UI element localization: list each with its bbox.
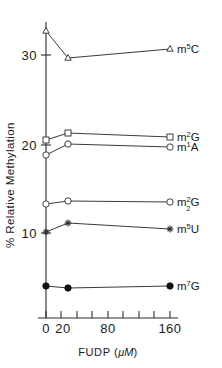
x-tick-label-20: 20 [55, 321, 70, 336]
series-label-m7G-base: m [177, 280, 187, 292]
series-m5C-line [46, 31, 170, 58]
series-m5C-marker-2 [167, 46, 173, 52]
series-m7G-marker-0 [43, 283, 49, 289]
series-m1A-marker-0 [43, 152, 49, 158]
series-m1A: m1A [43, 140, 199, 158]
series-m2G-marker-0 [43, 137, 49, 143]
series-label-m1A-rest: A [191, 141, 199, 153]
axis-group [38, 22, 178, 318]
x-tick-label-0: 0 [42, 321, 50, 336]
x-tick-labels: 0 20 80 160 [42, 321, 181, 336]
series-label-m5U-base: m [177, 223, 187, 235]
series-m2G-marker-1 [65, 130, 71, 136]
methylation-line-chart: 30 20 10 0 20 80 160 FUDP (μM) [0, 0, 222, 368]
series-m5U-line [46, 223, 170, 232]
y-tick-label-20: 20 [22, 138, 37, 153]
series-label-m22G: m22G [177, 195, 199, 213]
series-label-m5U: m5U [177, 222, 199, 235]
series-m5U: m5U [43, 220, 199, 236]
x-axis-title-text: FUDP (μM) [78, 346, 138, 358]
series-m5U-marker-1 [65, 220, 72, 227]
series-m1A-marker-1 [65, 141, 71, 147]
series-m7G-marker-2 [167, 283, 173, 289]
series-m1A-line [46, 144, 170, 155]
series-m7G-marker-1 [65, 285, 71, 291]
series-label-m7G: m7G [177, 279, 200, 292]
series-m5C-marker-0 [43, 28, 49, 34]
series-label-m5C-rest: C [191, 43, 199, 55]
series-m1A-marker-2 [167, 144, 173, 150]
y-tick-labels: 30 20 10 [22, 48, 37, 241]
figure-container: 30 20 10 0 20 80 160 FUDP (μM) [0, 0, 222, 368]
x-axis-title-close: ) [134, 346, 138, 358]
series-m5U-marker-2 [167, 226, 174, 233]
y-tick-label-10: 10 [22, 226, 37, 241]
x-tick-label-160: 160 [158, 321, 181, 336]
series-m2G-marker-2 [167, 134, 173, 140]
series-m7G: m7G [43, 279, 200, 292]
series-label-m22G-rest: G [190, 196, 199, 208]
series-m5U-marker-0 [43, 229, 50, 236]
series-m22G-marker-2 [167, 199, 173, 205]
series-label-m5C-base: m [177, 43, 187, 55]
series-m22G-marker-0 [43, 201, 49, 207]
series-m22G: m22G [43, 195, 200, 213]
y-axis-title: % Relative Methylation [4, 122, 16, 248]
series-label-m5C: m5C [177, 42, 199, 55]
x-ticks [46, 311, 170, 318]
x-tick-label-80: 80 [100, 321, 115, 336]
series-label-m7G-rest: G [191, 280, 200, 292]
x-axis-title-unit: μM [117, 346, 134, 358]
series-label-m5U-rest: U [191, 223, 199, 235]
series-label-m1A-base: m [177, 141, 187, 153]
series-label-m1A: m1A [177, 140, 199, 153]
x-axis-title: FUDP (μM) [78, 346, 138, 358]
y-tick-label-30: 30 [22, 48, 37, 63]
series-label-m22G-base: m [177, 196, 187, 208]
series-m22G-marker-1 [65, 198, 71, 204]
x-axis-title-main: FUDP ( [78, 346, 118, 358]
series-m5C: m5C [43, 28, 199, 61]
